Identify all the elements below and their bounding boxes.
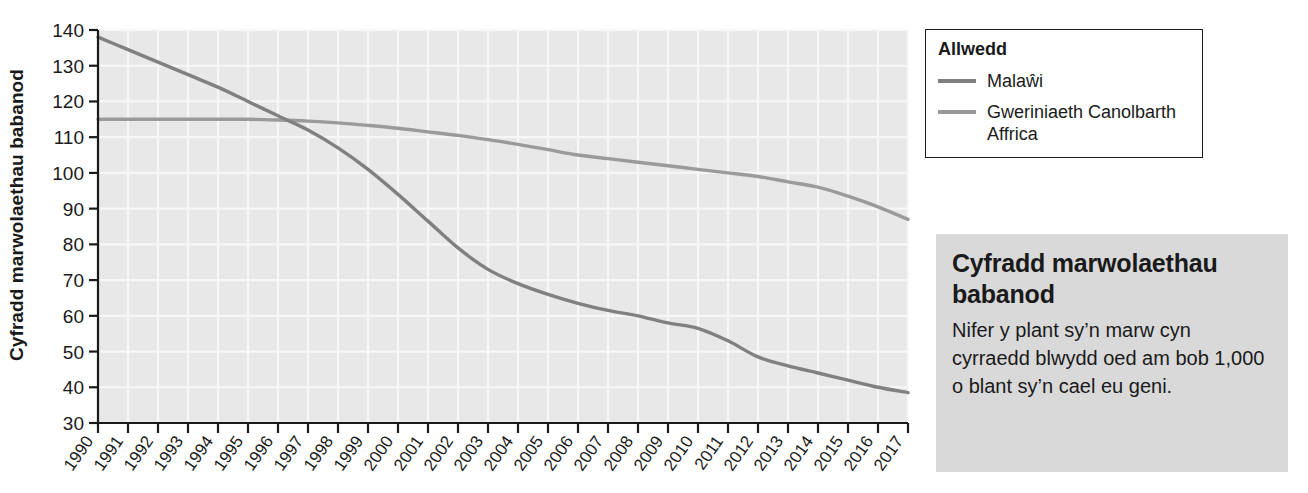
x-tick-label: 2004 <box>480 432 517 474</box>
y-tick-label: 30 <box>63 413 84 434</box>
y-axis-ticks: 30405060708090100110120130140 <box>52 20 98 434</box>
info-box-body: Nifer y plant sy’n marw cyn cyrraedd blw… <box>952 316 1270 400</box>
x-tick-label: 2012 <box>720 432 757 474</box>
y-tick-label: 100 <box>52 163 84 184</box>
x-tick-label: 2000 <box>360 432 397 474</box>
x-tick-label: 2002 <box>420 432 457 474</box>
x-tick-label: 1998 <box>300 432 337 474</box>
legend-line-swatch <box>938 110 976 114</box>
y-tick-label: 40 <box>63 377 84 398</box>
x-tick-label: 2013 <box>750 432 787 474</box>
x-axis-ticks: 1990199119921993199419951996199719981999… <box>60 423 908 474</box>
line-chart: 30405060708090100110120130140 1990199119… <box>0 0 920 493</box>
legend-box: Allwedd MalaŵiGweriniaeth Canolbarth Aff… <box>925 29 1203 158</box>
legend-item-label: Gweriniaeth Canolbarth Affrica <box>987 101 1192 145</box>
legend-items: MalaŵiGweriniaeth Canolbarth Affrica <box>936 70 1192 145</box>
x-tick-label: 2017 <box>870 432 907 474</box>
info-box: Cyfradd marwolaethau babanod Nifer y pla… <box>936 234 1288 472</box>
x-tick-label: 2006 <box>540 432 577 474</box>
legend-title: Allwedd <box>938 39 1192 60</box>
y-tick-label: 140 <box>52 20 84 41</box>
legend-item: Malaŵi <box>936 70 1192 92</box>
legend-item: Gweriniaeth Canolbarth Affrica <box>936 101 1192 145</box>
x-tick-label: 1995 <box>210 432 247 474</box>
x-tick-label: 2003 <box>450 432 487 474</box>
y-tick-label: 90 <box>63 199 84 220</box>
x-tick-label: 2007 <box>570 432 607 474</box>
x-tick-label: 2011 <box>691 432 728 473</box>
x-tick-label: 1992 <box>120 432 157 474</box>
legend-item-label: Malaŵi <box>987 70 1043 92</box>
x-tick-label: 1999 <box>330 432 367 474</box>
x-tick-label: 2015 <box>810 432 847 474</box>
x-tick-label: 1991 <box>90 432 127 474</box>
y-tick-label: 120 <box>52 91 84 112</box>
x-tick-label: 2001 <box>390 432 427 474</box>
x-tick-label: 2010 <box>660 432 697 474</box>
y-tick-label: 60 <box>63 306 84 327</box>
x-tick-label: 2005 <box>510 432 547 474</box>
y-tick-label: 50 <box>63 342 84 363</box>
y-tick-label: 80 <box>63 234 84 255</box>
x-tick-label: 2009 <box>630 432 667 474</box>
x-tick-label: 1997 <box>270 432 307 474</box>
x-tick-label: 2016 <box>840 432 877 474</box>
x-tick-label: 1993 <box>150 432 187 474</box>
legend-line-swatch <box>938 79 976 83</box>
x-tick-label: 1990 <box>60 432 97 474</box>
x-tick-label: 2008 <box>600 432 637 474</box>
y-tick-label: 130 <box>52 56 84 77</box>
y-tick-label: 70 <box>63 270 84 291</box>
y-tick-label: 110 <box>54 127 84 148</box>
x-tick-label: 1996 <box>240 432 277 474</box>
chart-region: Cyfradd marwolaethau babanod 30405060708… <box>0 0 920 493</box>
x-tick-label: 1994 <box>180 432 217 474</box>
x-tick-label: 2014 <box>780 432 817 474</box>
info-box-title: Cyfradd marwolaethau babanod <box>952 248 1270 310</box>
